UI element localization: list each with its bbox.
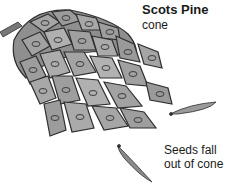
seeds-caption-line1: Seeds fall: [164, 143, 225, 157]
seed-upper-right: [170, 102, 216, 114]
cone-subtitle: cone: [142, 18, 168, 32]
cone-title: Scots Pine: [142, 3, 208, 17]
seeds-caption: Seeds fall out of cone: [164, 143, 225, 171]
seed-lower: [118, 146, 152, 182]
seeds-caption-line2: out of cone: [164, 157, 225, 171]
